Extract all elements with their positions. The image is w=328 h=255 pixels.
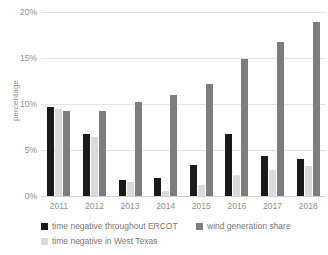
bar — [261, 156, 268, 196]
x-axis-tick-label: 2013 — [112, 199, 148, 213]
legend-label: wind generation share — [207, 222, 291, 231]
chart-legend: time negative throughout ERCOTwind gener… — [41, 222, 328, 252]
x-axis-tick-label: 2015 — [184, 199, 220, 213]
bar-group — [41, 12, 77, 196]
legend-label: time negative in West Texas — [52, 237, 158, 246]
y-axis-tick-label: 0% — [0, 192, 37, 201]
x-axis-tick-labels: 20112012201320142015201620172018 — [41, 199, 326, 213]
bar — [241, 59, 248, 196]
y-axis-tick-label: 20% — [0, 8, 37, 17]
bar — [154, 178, 161, 196]
bar — [233, 175, 240, 196]
bar — [305, 166, 312, 196]
bar — [47, 107, 54, 196]
bar — [99, 111, 106, 196]
bar-group — [184, 12, 220, 196]
bar — [225, 134, 232, 196]
bar-group — [255, 12, 291, 196]
legend-item[interactable]: time negative throughout ERCOT — [41, 222, 178, 231]
plot-area: 0%5%10%15%20% — [41, 12, 326, 196]
legend-swatch-icon — [196, 223, 203, 230]
bar — [269, 170, 276, 196]
legend-swatch-icon — [41, 223, 48, 230]
bar — [119, 180, 126, 196]
bar-group — [290, 12, 326, 196]
bar — [297, 159, 304, 196]
bar — [190, 165, 197, 196]
y-axis-tick-label: 5% — [0, 146, 37, 155]
bar-group — [219, 12, 255, 196]
legend-swatch-icon — [41, 238, 48, 245]
bar — [313, 22, 320, 196]
gridline — [41, 196, 326, 197]
bar — [135, 102, 142, 196]
legend-label: time negative throughout ERCOT — [52, 222, 178, 231]
bar-group — [112, 12, 148, 196]
x-axis-tick-label: 2011 — [41, 199, 77, 213]
y-axis-tick-label: 10% — [0, 100, 37, 109]
bar-groups — [41, 12, 326, 196]
bar-chart: percentage 0%5%10%15%20% 201120122013201… — [0, 0, 328, 255]
x-axis-tick-label: 2012 — [77, 199, 113, 213]
bar — [63, 111, 70, 196]
bar — [162, 191, 169, 196]
bar-group — [77, 12, 113, 196]
legend-item[interactable]: wind generation share — [196, 222, 291, 231]
bar — [83, 134, 90, 196]
bar — [277, 42, 284, 196]
bar — [206, 84, 213, 196]
bar — [198, 185, 205, 196]
bar-group — [148, 12, 184, 196]
bar — [91, 137, 98, 196]
x-axis-tick-label: 2014 — [148, 199, 184, 213]
x-axis-tick-label: 2017 — [255, 199, 291, 213]
bar — [127, 182, 134, 196]
bar — [55, 109, 62, 196]
legend-item[interactable]: time negative in West Texas — [41, 237, 158, 246]
bar — [170, 95, 177, 196]
x-axis-tick-label: 2016 — [219, 199, 255, 213]
x-axis-tick-label: 2018 — [290, 199, 326, 213]
y-axis-tick-label: 15% — [0, 54, 37, 63]
